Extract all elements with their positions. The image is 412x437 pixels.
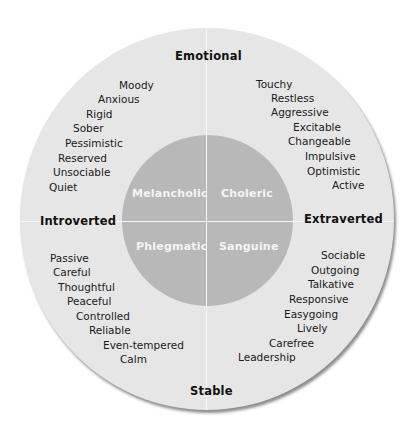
axis-label-introverted: Introverted	[40, 214, 116, 228]
trait-changeable: Changeable	[288, 136, 351, 147]
axis-label-extraverted: Extraverted	[304, 212, 383, 226]
trait-excitable: Excitable	[293, 122, 341, 133]
temperament-choleric: Choleric	[221, 187, 273, 200]
trait-responsive: Responsive	[289, 294, 349, 305]
trait-talkative: Talkative	[308, 279, 354, 290]
trait-even-tempered: Even-tempered	[103, 340, 184, 351]
trait-touchy: Touchy	[256, 79, 292, 90]
temperament-phlegmatic: Phlegmatic	[136, 240, 207, 253]
vertical-divider	[206, 28, 207, 410]
trait-quiet: Quiet	[49, 182, 77, 193]
trait-reserved: Reserved	[58, 153, 107, 164]
trait-peaceful: Peaceful	[67, 296, 111, 307]
trait-calm: Calm	[120, 354, 147, 365]
temperament-melancholic: Melancholic	[132, 187, 208, 200]
trait-rigid: Rigid	[86, 109, 112, 120]
trait-outgoing: Outgoing	[311, 265, 359, 276]
temperament-sanguine: Sanguine	[219, 240, 279, 253]
trait-anxious: Anxious	[98, 94, 140, 105]
trait-passive: Passive	[50, 253, 89, 264]
trait-reliable: Reliable	[89, 325, 131, 336]
trait-controlled: Controlled	[76, 311, 130, 322]
temperament-diagram: Emotional Stable Introverted Extraverted…	[0, 0, 412, 437]
axis-label-stable: Stable	[190, 384, 233, 398]
trait-easygoing: Easygoing	[284, 309, 338, 320]
trait-careful: Careful	[53, 267, 91, 278]
trait-thoughtful: Thoughtful	[58, 282, 115, 293]
trait-optimistic: Optimistic	[307, 166, 360, 177]
trait-unsociable: Unsociable	[53, 167, 110, 178]
trait-sober: Sober	[73, 123, 104, 134]
trait-aggressive: Aggressive	[271, 107, 329, 118]
trait-lively: Lively	[297, 323, 328, 334]
trait-sociable: Sociable	[321, 250, 365, 261]
trait-carefree: Carefree	[269, 338, 314, 349]
trait-impulsive: Impulsive	[305, 151, 356, 162]
trait-leadership: Leadership	[238, 352, 296, 363]
trait-active: Active	[332, 180, 364, 191]
trait-pessimistic: Pessimistic	[65, 138, 123, 149]
trait-restless: Restless	[271, 93, 314, 104]
trait-moody: Moody	[119, 80, 154, 91]
axis-label-emotional: Emotional	[175, 49, 242, 63]
